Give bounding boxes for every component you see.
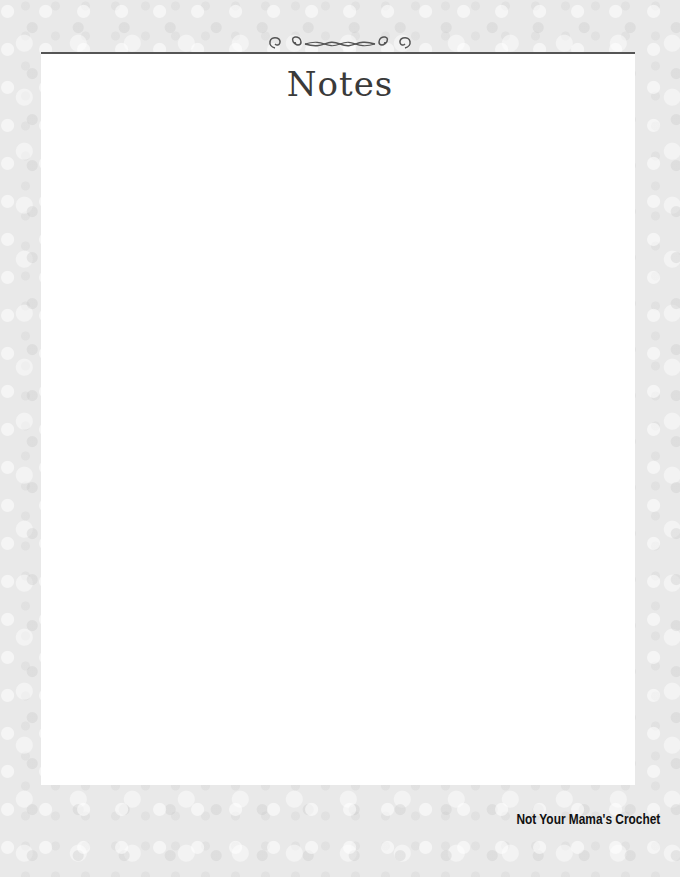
page-title: Notes — [0, 64, 680, 104]
book-title-footer: Not Your Mama's Crochet — [516, 811, 660, 827]
scroll-ornament-icon — [265, 30, 415, 56]
notes-page-panel — [41, 53, 635, 785]
